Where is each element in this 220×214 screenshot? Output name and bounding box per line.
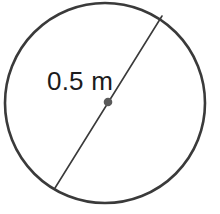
center-point-dot bbox=[104, 98, 113, 107]
diameter-measurement-label: 0.5 m bbox=[47, 66, 113, 96]
diagram-canvas: 0.5 m bbox=[0, 0, 220, 214]
circle-diameter-figure: 0.5 m bbox=[0, 0, 220, 214]
